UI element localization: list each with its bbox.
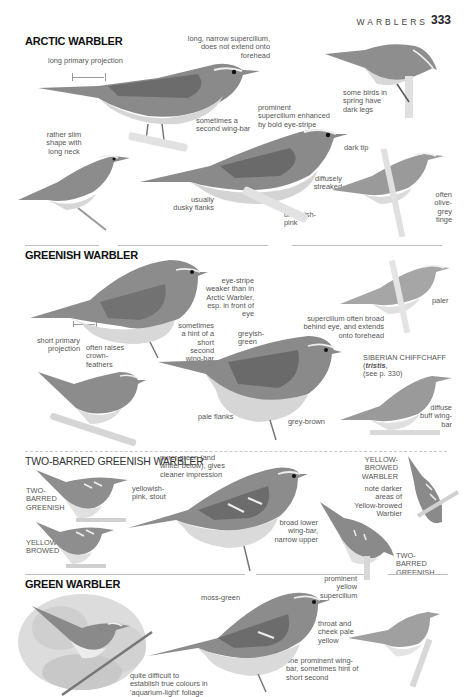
bird-illustration-arctic-olive [332,148,452,238]
bird-illustration-green-right [348,608,443,688]
bird-illustration-two-barred-center [128,456,310,571]
section-divider-dashed [25,451,447,452]
bird-illustration-green-center [148,580,333,695]
section-title-arctic-warbler: ARCTIC WARBLER [25,35,122,47]
bird-illustration-siberian-chiffchaff [340,372,455,442]
section-divider [388,574,448,575]
bird-illustration-green-in-foliage [12,592,162,695]
section-title-green-warbler: GREEN WARBLER [25,578,120,590]
bird-illustration-greenish-crown [38,366,148,446]
running-head: WARBLERS [357,17,428,27]
section-divider [25,245,99,246]
section-divider [292,245,442,246]
bird-illustration-arctic-slim [18,152,133,232]
note-long-narrow-supercilium: long, narrow supercilium, does not exten… [178,35,270,60]
bird-illustration-greenish-center [158,330,343,445]
bird-illustration-two-barred-right [320,500,400,580]
bird-illustration-greenish-pale [340,254,455,334]
section-divider [25,574,245,575]
bird-illustration-two-barred-small [36,466,131,526]
bird-illustration-arctic-center [140,120,350,220]
label-yellow-browed-right: YELLOW-BROWED WARBLER [344,456,398,481]
bird-illustration-yellow-browed-right [402,456,462,546]
section-divider [118,245,268,246]
page-number: 333 [431,13,451,27]
bird-illustration-yellow-browed-small [36,520,116,570]
bird-illustration-arctic-spring [325,38,447,118]
